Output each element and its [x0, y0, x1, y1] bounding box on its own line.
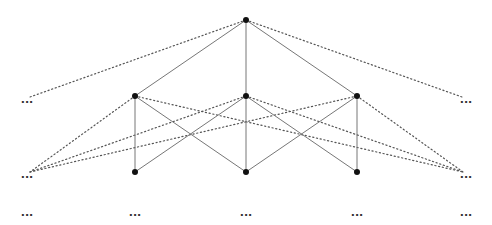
- dotted-edge: [30, 96, 357, 172]
- solid-edge: [135, 20, 246, 96]
- graph-node-b1: [132, 169, 138, 175]
- dotted-edge: [30, 96, 246, 172]
- graph-node-b3: [354, 169, 360, 175]
- ellipsis-e-left-low: ...: [21, 170, 34, 180]
- graph-node-m2: [243, 93, 249, 99]
- dotted-edge: [135, 96, 463, 172]
- graph-node-m3: [354, 93, 360, 99]
- ellipsis-e-bottom-4: ...: [351, 208, 364, 218]
- dotted-edge: [30, 20, 246, 97]
- dotted-edge: [30, 96, 135, 172]
- ellipsis-e-bottom-1: ...: [21, 208, 34, 218]
- dotted-edge: [246, 96, 463, 172]
- ellipsis-e-bottom-5: ...: [460, 208, 473, 218]
- ellipsis-e-bottom-2: ...: [129, 208, 142, 218]
- ellipsis-e-left-mid: ...: [21, 95, 34, 105]
- ellipsis-e-bottom-3: ...: [240, 208, 253, 218]
- dotted-edge: [246, 20, 462, 97]
- graph-node-top: [243, 17, 249, 23]
- solid-edge: [246, 20, 357, 96]
- graph-node-b2: [243, 169, 249, 175]
- ellipsis-e-right-mid: ...: [460, 95, 473, 105]
- diagram-edges: [0, 0, 492, 225]
- graph-node-m1: [132, 93, 138, 99]
- dotted-edge: [357, 96, 463, 172]
- ellipsis-e-right-low: ...: [460, 170, 473, 180]
- lattice-diagram: ...........................: [0, 0, 492, 225]
